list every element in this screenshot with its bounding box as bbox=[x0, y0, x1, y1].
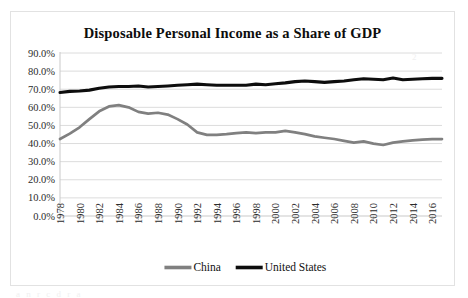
y-axis-tick-label: 20.0% bbox=[28, 174, 55, 185]
x-axis-tick-label: 2002 bbox=[290, 203, 301, 224]
y-axis-tick-label: 50.0% bbox=[28, 120, 55, 131]
y-axis-tick-label: 30.0% bbox=[28, 156, 55, 167]
page-bleed-text-footer: a n r c d r a bbox=[16, 289, 82, 298]
x-axis-tick-label: 1994 bbox=[212, 202, 223, 224]
x-axis-tick-label: 2010 bbox=[368, 203, 379, 224]
x-axis-tick-label: 2000 bbox=[270, 203, 281, 224]
y-axis-tick-label: 40.0% bbox=[28, 138, 55, 149]
chart-plot: 0.0%10.0%20.0%30.0%40.0%50.0%60.0%70.0%8… bbox=[11, 12, 456, 287]
x-axis-tick-label: 1978 bbox=[55, 203, 66, 224]
x-axis-tick-label: 1988 bbox=[153, 203, 164, 224]
y-axis-tick-label: 70.0% bbox=[28, 84, 55, 95]
x-axis-tick-label: 2004 bbox=[310, 202, 321, 224]
x-axis-tick-label: 1986 bbox=[133, 203, 144, 224]
x-axis-tick-label: 1990 bbox=[173, 203, 184, 224]
x-axis-tick-label: 2014 bbox=[408, 202, 419, 224]
legend-label: United States bbox=[265, 261, 327, 273]
x-axis-tick-label: 2012 bbox=[388, 203, 399, 224]
y-axis-tick-label: 0.0% bbox=[33, 211, 55, 222]
x-axis-tick-label: 1998 bbox=[251, 203, 262, 224]
x-axis-tick-label: 1982 bbox=[94, 203, 105, 224]
x-axis-tick-label: 1992 bbox=[192, 203, 203, 224]
chart-frame: Disposable Personal Income as a Share of… bbox=[10, 11, 455, 286]
x-axis-tick-label: 2008 bbox=[349, 203, 360, 224]
x-axis-tick-label: 2016 bbox=[427, 203, 438, 224]
x-axis-tick-label: 1984 bbox=[114, 202, 125, 224]
x-axis-tick-label: 1996 bbox=[231, 203, 242, 224]
x-axis-tick-label: 2006 bbox=[329, 203, 340, 224]
legend-label: China bbox=[193, 261, 220, 273]
y-axis-tick-label: 10.0% bbox=[28, 192, 55, 203]
x-axis-tick-label: 1980 bbox=[75, 203, 86, 224]
series-line-united-states bbox=[60, 78, 442, 92]
y-axis-tick-label: 80.0% bbox=[28, 66, 55, 77]
y-axis-tick-label: 90.0% bbox=[28, 48, 55, 59]
y-axis-tick-label: 60.0% bbox=[28, 102, 55, 113]
